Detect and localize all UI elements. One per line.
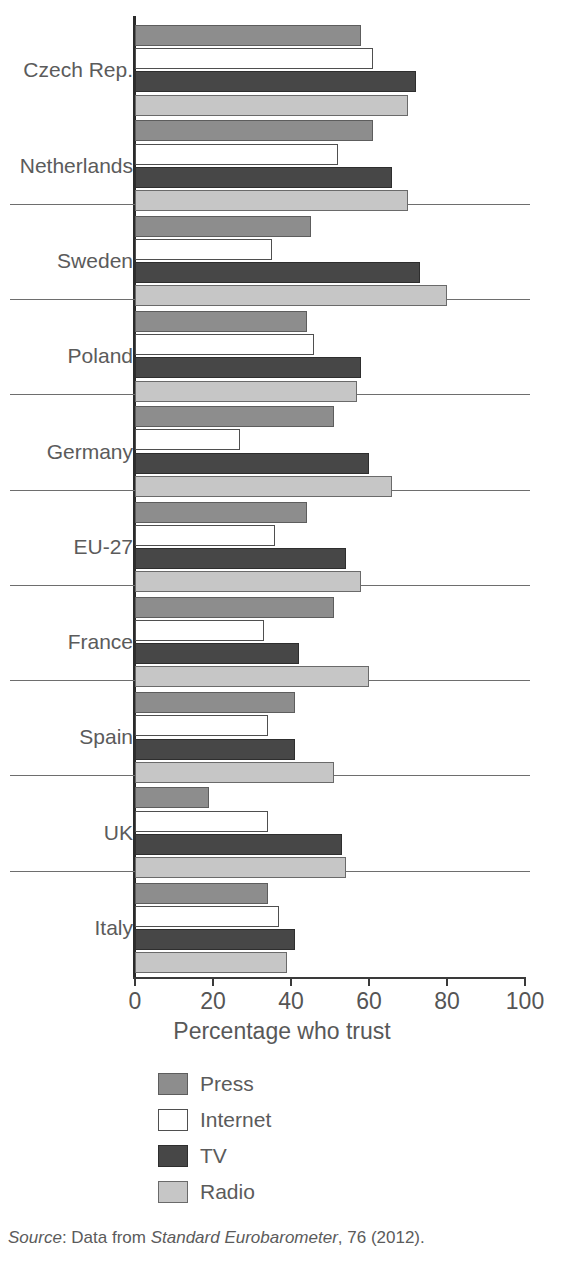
category-label-spain: Spain bbox=[79, 726, 133, 748]
bar-spain-press bbox=[135, 692, 295, 713]
bar-germany-internet bbox=[135, 429, 240, 450]
x-tick-100 bbox=[524, 977, 526, 986]
legend-item-internet[interactable]: Internet bbox=[158, 1102, 418, 1138]
bar-eu-27-internet bbox=[135, 525, 275, 546]
bar-germany-press bbox=[135, 406, 334, 427]
bar-italy-internet bbox=[135, 906, 279, 927]
x-tick-label-80: 80 bbox=[434, 988, 460, 1014]
source-publication: Standard Eurobarometer bbox=[151, 1228, 338, 1247]
bar-czech-rep-tv bbox=[135, 71, 416, 92]
x-tick-20 bbox=[212, 977, 214, 986]
bar-uk-press bbox=[135, 787, 209, 808]
bar-italy-press bbox=[135, 883, 268, 904]
source-note: Source: Data from Standard Eurobarometer… bbox=[8, 1228, 425, 1248]
press-swatch bbox=[158, 1073, 188, 1095]
bar-netherlands-radio bbox=[135, 190, 408, 211]
bar-germany-tv bbox=[135, 453, 369, 474]
bar-france-tv bbox=[135, 643, 299, 664]
chart-legend: PressInternetTVRadio bbox=[158, 1066, 418, 1210]
x-tick-label-40: 40 bbox=[278, 988, 304, 1014]
category-label-germany: Germany bbox=[47, 441, 133, 463]
bar-poland-tv bbox=[135, 357, 361, 378]
bar-spain-internet bbox=[135, 715, 268, 736]
x-axis-title: Percentage who trust bbox=[0, 1018, 564, 1045]
legend-label-press: Press bbox=[200, 1072, 254, 1096]
bar-poland-press bbox=[135, 311, 307, 332]
source-colon: : Data from bbox=[62, 1228, 151, 1247]
x-tick-label-20: 20 bbox=[200, 988, 226, 1014]
bar-eu-27-radio bbox=[135, 571, 361, 592]
bar-netherlands-press bbox=[135, 120, 373, 141]
bar-netherlands-tv bbox=[135, 167, 392, 188]
legend-label-internet: Internet bbox=[200, 1108, 271, 1132]
bar-uk-radio bbox=[135, 857, 346, 878]
x-tick-label-100: 100 bbox=[506, 988, 544, 1014]
bar-poland-radio bbox=[135, 381, 357, 402]
bar-italy-radio bbox=[135, 952, 287, 973]
x-tick-80 bbox=[446, 977, 448, 986]
radio-swatch bbox=[158, 1181, 188, 1203]
legend-label-radio: Radio bbox=[200, 1180, 255, 1204]
bar-eu-27-tv bbox=[135, 548, 346, 569]
bar-eu-27-press bbox=[135, 502, 307, 523]
category-label-uk: UK bbox=[104, 822, 133, 844]
source-suffix: , 76 (2012). bbox=[338, 1228, 425, 1247]
bar-czech-rep-radio bbox=[135, 95, 408, 116]
bar-sweden-radio bbox=[135, 285, 447, 306]
trust-in-media-bar-chart: Czech Rep.NetherlandsSwedenPolandGermany… bbox=[0, 0, 564, 1262]
category-label-italy: Italy bbox=[94, 917, 133, 939]
legend-label-tv: TV bbox=[200, 1144, 227, 1168]
bar-france-press bbox=[135, 597, 334, 618]
category-label-sweden: Sweden bbox=[57, 250, 133, 272]
x-tick-40 bbox=[290, 977, 292, 986]
x-tick-0 bbox=[134, 977, 136, 986]
bar-spain-radio bbox=[135, 762, 334, 783]
category-label-netherlands: Netherlands bbox=[20, 155, 133, 177]
category-label-france: France bbox=[68, 631, 133, 653]
bar-uk-internet bbox=[135, 811, 268, 832]
x-tick-label-60: 60 bbox=[356, 988, 382, 1014]
bar-spain-tv bbox=[135, 739, 295, 760]
x-tick-label-0: 0 bbox=[129, 988, 142, 1014]
legend-item-radio[interactable]: Radio bbox=[158, 1174, 418, 1210]
bar-germany-radio bbox=[135, 476, 392, 497]
category-label-poland: Poland bbox=[68, 345, 133, 367]
legend-item-press[interactable]: Press bbox=[158, 1066, 418, 1102]
bar-france-internet bbox=[135, 620, 264, 641]
bar-sweden-internet bbox=[135, 239, 272, 260]
bar-czech-rep-internet bbox=[135, 48, 373, 69]
category-label-eu-27: EU-27 bbox=[73, 536, 133, 558]
legend-item-tv[interactable]: TV bbox=[158, 1138, 418, 1174]
internet-swatch bbox=[158, 1109, 188, 1131]
bar-czech-rep-press bbox=[135, 25, 361, 46]
bar-sweden-tv bbox=[135, 262, 420, 283]
bar-poland-internet bbox=[135, 334, 314, 355]
plot-area: Czech Rep.NetherlandsSwedenPolandGermany… bbox=[0, 0, 564, 1010]
bar-netherlands-internet bbox=[135, 144, 338, 165]
bar-france-radio bbox=[135, 666, 369, 687]
bar-uk-tv bbox=[135, 834, 342, 855]
source-prefix: Source bbox=[8, 1228, 62, 1247]
x-axis-line bbox=[133, 977, 526, 979]
x-tick-60 bbox=[368, 977, 370, 986]
tv-swatch bbox=[158, 1145, 188, 1167]
category-label-czech-rep: Czech Rep. bbox=[23, 59, 133, 81]
bar-sweden-press bbox=[135, 216, 311, 237]
bar-italy-tv bbox=[135, 929, 295, 950]
